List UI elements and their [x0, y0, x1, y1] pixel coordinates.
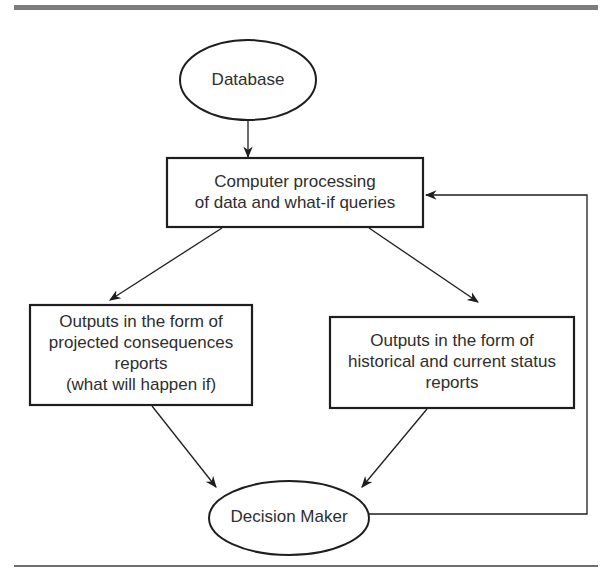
historical-label-line-2: historical and current status: [330, 351, 574, 372]
edge-processing-to-historical: [369, 228, 478, 302]
edge-processing-to-projected: [110, 228, 222, 300]
decision-maker-node-label: Decision Maker: [209, 506, 369, 527]
processing-label-line-1: Computer processing: [167, 171, 423, 192]
projected-label-line-3: reports: [30, 353, 252, 374]
database-label-text: Database: [180, 69, 316, 90]
historical-node-label: Outputs in the form of historical and cu…: [330, 330, 574, 393]
bottom-rule: [14, 565, 598, 567]
edge-historical-to-decision-maker: [362, 409, 427, 487]
projected-label-line-1: Outputs in the form of: [30, 311, 252, 332]
edge-projected-to-decision-maker: [152, 406, 216, 487]
database-node-label: Database: [180, 69, 316, 90]
historical-label-line-1: Outputs in the form of: [330, 330, 574, 351]
projected-node-label: Outputs in the form of projected consequ…: [30, 311, 252, 395]
historical-label-line-3: reports: [330, 372, 574, 393]
processing-label-line-2: of data and what-if queries: [167, 192, 423, 213]
processing-node-label: Computer processing of data and what-if …: [167, 171, 423, 213]
projected-label-line-4: (what will happen if): [30, 374, 252, 395]
projected-label-line-2: projected consequences: [30, 332, 252, 353]
decision-maker-label-text: Decision Maker: [209, 506, 369, 527]
